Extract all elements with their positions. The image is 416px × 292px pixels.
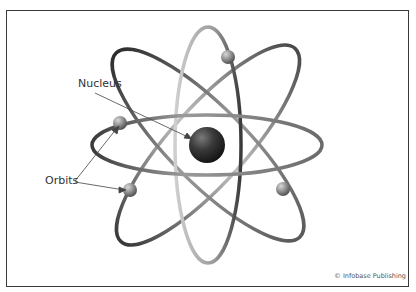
arrowhead-icon bbox=[184, 133, 192, 139]
copyright-credit: © Infobase Publishing bbox=[334, 272, 406, 280]
nucleus bbox=[189, 127, 225, 163]
electron bbox=[276, 182, 290, 196]
electron bbox=[221, 50, 235, 64]
orbits-leader-line-lower bbox=[75, 182, 124, 190]
nucleus-label: Nucleus bbox=[78, 77, 122, 90]
atom-diagram bbox=[0, 0, 416, 292]
orbits-label: Orbits bbox=[45, 174, 78, 187]
